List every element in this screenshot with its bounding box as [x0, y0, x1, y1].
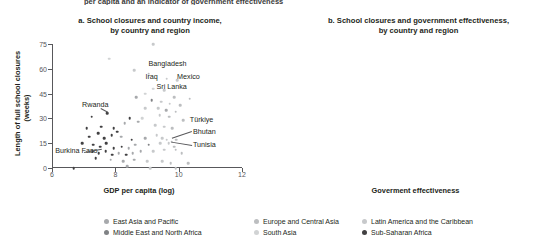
scatter-point [152, 150, 155, 153]
scatter-point [110, 134, 113, 137]
x-tick-label: 6 [50, 171, 54, 178]
panel-a: a. School closures and country income, b… [0, 16, 278, 212]
scatter-point [86, 127, 89, 130]
scatter-point [116, 130, 119, 133]
figure-caption-continuation: per capita and an indicator of governmen… [84, 0, 504, 5]
panel-a-y-axis-label: Length of full school closures(weeks) [14, 60, 31, 156]
panel-a-title: a. School closures and country income, b… [0, 16, 278, 35]
scatter-point [137, 120, 140, 123]
scatter-point [112, 127, 115, 130]
scatter-point [127, 147, 130, 150]
scatter-point [150, 99, 153, 102]
scatter-point [173, 145, 176, 148]
y-tick [48, 143, 52, 144]
panel-b-title-line2: by country and region [379, 26, 459, 35]
legend-item-south-asia[interactable]: South Asia [254, 229, 296, 236]
scatter-point [126, 165, 129, 168]
scatter-point [90, 115, 93, 118]
y-tick-label: 45 [39, 90, 47, 97]
scatter-point [99, 145, 102, 148]
scatter-point [187, 162, 190, 165]
scatter-point [108, 58, 111, 61]
panel-b-title: b. School closures and government effect… [278, 16, 553, 35]
legend-item-latin-america-and-the-caribbean[interactable]: Latin America and the Caribbean [362, 218, 473, 225]
point-annotation: Mexico [177, 73, 200, 81]
y-tick-label: 0 [43, 165, 47, 172]
x-tick-label: 12 [238, 171, 246, 178]
panel-a-title-line2: by country and region [110, 26, 190, 35]
scatter-point [133, 69, 136, 72]
scatter-point [181, 152, 184, 155]
legend-label: South Asia [263, 229, 296, 236]
chart-legend: East Asia and PacificMiddle East and Nor… [104, 218, 504, 248]
point-annotation: Bhutan [193, 128, 216, 136]
scatter-point [161, 137, 164, 140]
scatter-point [117, 152, 120, 155]
scatter-point [112, 147, 115, 150]
scatter-point [122, 160, 125, 163]
legend-label: Middle East and North Africa [113, 229, 202, 236]
point-annotation: Iraq [145, 73, 157, 81]
scatter-point [169, 102, 172, 105]
scatter-point [161, 160, 164, 163]
y-tick [48, 44, 52, 45]
scatter-point [134, 144, 137, 147]
scatter-point [160, 101, 163, 104]
point-annotation: Türkiye [190, 116, 214, 124]
scatter-point [158, 114, 161, 117]
scatter-point [174, 110, 177, 113]
legend-item-east-asia-and-pacific[interactable]: East Asia and Pacific [104, 218, 178, 225]
legend-marker-icon [254, 219, 259, 224]
scatter-point [182, 119, 185, 122]
scatter-point [88, 135, 91, 138]
legend-item-europe-and-central-asia[interactable]: Europe and Central Asia [254, 218, 339, 225]
scatter-point [165, 109, 168, 112]
scatter-point [120, 135, 123, 138]
scatter-point [155, 134, 158, 137]
y-tick [48, 118, 52, 119]
scatter-point [103, 137, 106, 140]
scatter-point [125, 153, 128, 156]
scatter-point [131, 152, 134, 155]
x-tick-label: 8 [113, 171, 117, 178]
scatter-point [131, 139, 134, 142]
scatter-point [128, 117, 131, 120]
scatter-point [173, 96, 176, 99]
panel-b-x-axis-label: Goverment effectiveness [278, 186, 553, 195]
scatter-point [152, 87, 155, 90]
scatter-point [171, 127, 174, 130]
scatter-point [157, 107, 160, 110]
scatter-point [169, 162, 172, 165]
y-tick-label: 15 [39, 140, 47, 147]
scatter-point [111, 153, 114, 156]
legend-label: Sub-Saharan Africa [371, 229, 432, 236]
panel-b: b. School closures and government effect… [278, 16, 553, 212]
scatter-point [72, 167, 75, 170]
scatter-point [174, 167, 177, 170]
y-tick [48, 94, 52, 95]
legend-item-sub-saharan-africa[interactable]: Sub-Saharan Africa [362, 229, 432, 236]
legend-marker-icon [362, 230, 367, 235]
panel-a-x-axis-label: GDP per capita (log) [0, 186, 278, 195]
scatter-point [133, 158, 136, 161]
scatter-point [105, 142, 108, 145]
point-annotation: Sri Lanka [157, 83, 187, 91]
legend-item-middle-east-and-north-africa[interactable]: Middle East and North Africa [104, 229, 202, 236]
scatter-point [165, 77, 168, 80]
scatter-point [141, 117, 144, 120]
panel-a-x-axis [52, 167, 242, 168]
scatter-point [97, 132, 100, 135]
x-tick-label: 10 [175, 171, 183, 178]
scatter-point [165, 139, 168, 142]
scatter-point [188, 97, 191, 100]
scatter-point [144, 92, 147, 95]
y-tick-label: 30 [39, 115, 47, 122]
panel-a-title-line1: a. School closures and country income, [78, 16, 221, 25]
scatter-point [167, 142, 170, 145]
scatter-point [81, 142, 84, 145]
point-annotation: Rwanda [82, 101, 108, 109]
scatter-point [147, 144, 150, 147]
scatter-point [98, 152, 101, 155]
legend-label: East Asia and Pacific [113, 218, 178, 225]
scatter-point [144, 107, 147, 110]
